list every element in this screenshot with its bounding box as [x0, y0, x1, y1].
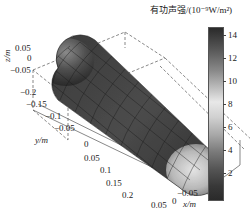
colorbar-tick: [223, 150, 226, 151]
y-tick-8: 0.2: [122, 190, 133, 200]
colorbar-tick-label: 14: [228, 30, 237, 40]
y-tick-1: −0.15: [26, 99, 47, 109]
colorbar-tick-label: 6: [228, 122, 233, 132]
y-tick-5: 0.05: [84, 153, 100, 163]
colorbar-tick-label: 12: [228, 53, 237, 63]
colorbar-title: 有功声强/(10⁻⁹W/m²): [150, 3, 232, 16]
colorbar-tick-label: 8: [228, 99, 233, 109]
z-axis-label: z/m: [2, 49, 12, 62]
colorbar-tick-label: 2: [228, 168, 233, 178]
y-axis-label: y/m: [35, 135, 48, 145]
colorbar-tick: [223, 81, 226, 82]
colorbar-tick: [223, 127, 226, 128]
colorbar-tick: [223, 35, 226, 36]
colorbar: [208, 27, 224, 201]
x-tick-1: 0: [172, 196, 177, 206]
x-tick-2: 0.05: [151, 200, 167, 210]
y-tick-3: −0.05: [54, 123, 75, 133]
z-tick-2: −0.05: [10, 65, 31, 75]
y-tick-4: 0: [84, 139, 89, 149]
colorbar-tick-label: 4: [228, 145, 233, 155]
colorbar-tick-label: 10: [228, 76, 237, 86]
colorbar-tick: [223, 173, 226, 174]
z-tick-1: 0: [27, 53, 32, 63]
y-tick-7: 0.15: [106, 178, 122, 188]
y-tick-2: −0.1: [45, 111, 61, 121]
y-tick-0: −0.2: [20, 87, 36, 97]
y-tick-6: 0.1: [100, 165, 111, 175]
colorbar-tick: [223, 104, 226, 105]
x-axis-label: x/m: [183, 199, 196, 209]
x-tick-0: −0.05: [177, 188, 198, 198]
colorbar-tick: [223, 58, 226, 59]
z-tick-0: 0.05: [15, 43, 31, 53]
capsule-surface: [38, 35, 226, 196]
